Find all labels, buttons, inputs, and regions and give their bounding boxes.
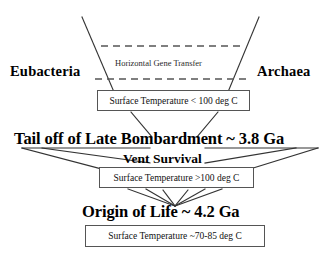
funnel-line-inner-right bbox=[205, 148, 296, 163]
heading-origin-of-life: Origin of Life ~ 4.2 Ga bbox=[82, 204, 240, 221]
label-eubacteria: Eubacteria bbox=[10, 64, 80, 79]
heading-vent-survival: Vent Survival bbox=[123, 152, 202, 166]
box-surface-temperature-hot: Surface Temperature >100 deg C bbox=[99, 167, 254, 188]
archaea-lineage-line bbox=[228, 17, 259, 92]
horizontal-gene-transfer-caption: Horizontal Gene Transfer bbox=[115, 58, 202, 68]
box-surface-temperature-cool: Surface Temperature < 100 deg C bbox=[97, 90, 250, 111]
box-surface-temperature-origin: Surface Temperature ~70-85 deg C bbox=[85, 225, 265, 247]
label-archaea: Archaea bbox=[257, 64, 310, 79]
origin-of-life-diagram: Eubacteria Archaea Horizontal Gene Trans… bbox=[0, 0, 334, 258]
eubacteria-lineage-line bbox=[82, 17, 114, 92]
heading-late-bombardment: Tail off of Late Bombardment ~ 3.8 Ga bbox=[14, 131, 284, 148]
